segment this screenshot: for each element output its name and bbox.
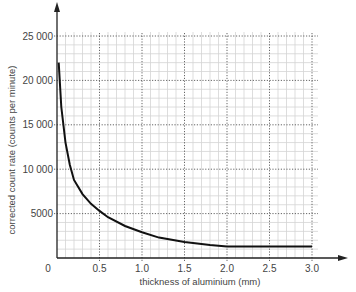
data-curve (59, 63, 312, 247)
y-tick-label: 15 000 (22, 119, 53, 130)
y-axis-arrow-icon (54, 2, 60, 12)
chart: 00.51.01.52.02.53.0500010 00015 00020 00… (0, 0, 356, 292)
x-tick-label: 0.5 (93, 263, 107, 274)
y-tick-label: 10 000 (22, 164, 53, 175)
y-tick-label: 20 000 (22, 75, 53, 86)
x-tick-label: 1.0 (135, 263, 149, 274)
minor-grid (57, 32, 318, 258)
x-tick-label: 2.0 (220, 263, 234, 274)
x-axis-arrow-icon (338, 255, 348, 261)
y-axis-label: corrected count rate (counts per minute) (6, 66, 17, 235)
y-tick-label: 5000 (31, 208, 54, 219)
x-tick-label: 3.0 (305, 263, 319, 274)
x-tick-label: 2.5 (263, 263, 277, 274)
x-tick-label: 0 (45, 263, 51, 274)
x-tick-label: 1.5 (178, 263, 192, 274)
x-axis-label: thickness of aluminium (mm) (140, 276, 261, 287)
y-tick-label: 25 000 (22, 31, 53, 42)
